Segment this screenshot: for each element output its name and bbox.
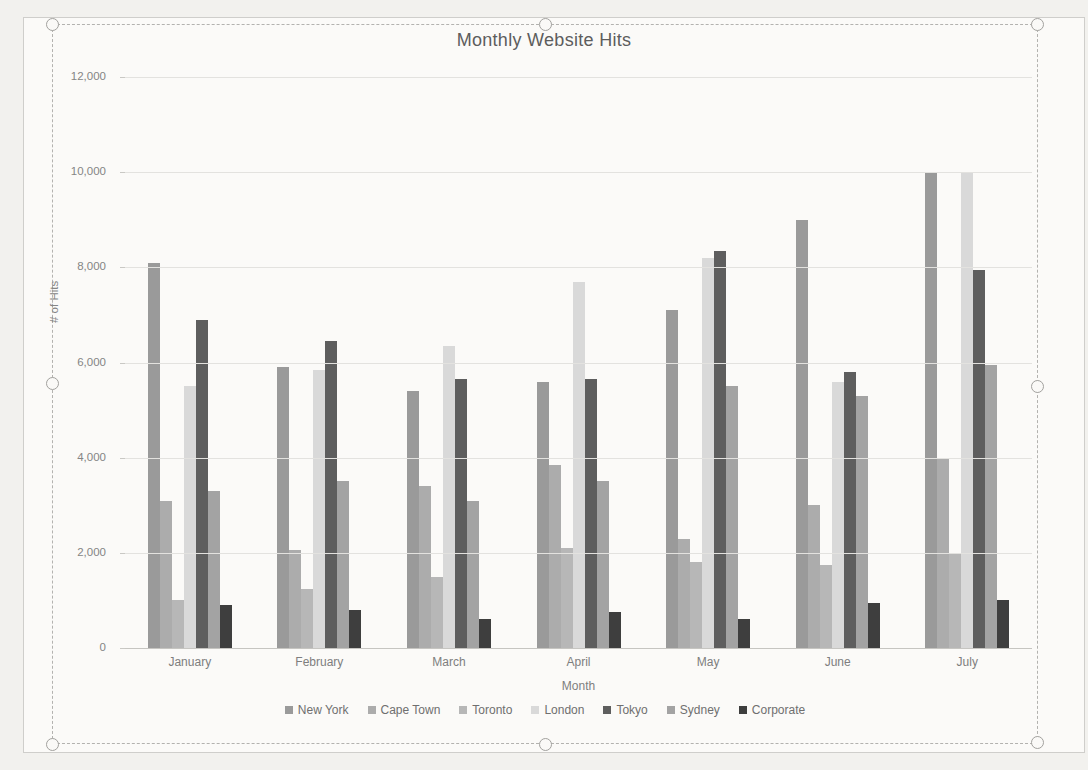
bar-corporate-june[interactable] (868, 603, 880, 648)
legend-item-tokyo[interactable]: Tokyo (603, 703, 647, 717)
bar-corporate-july[interactable] (997, 600, 1009, 648)
x-axis-labels[interactable]: JanuaryFebruaryMarchAprilMayJuneJuly (125, 655, 1032, 669)
x-axis-title[interactable]: Month (125, 679, 1032, 693)
bar-toronto-march[interactable] (431, 577, 443, 648)
bar-london-january[interactable] (184, 386, 196, 648)
selection-handle-bottom-right[interactable] (1031, 736, 1044, 749)
selection-handle-top-center[interactable] (539, 18, 552, 31)
y-axis-labels[interactable]: 12,00010,0008,0006,0004,0002,0000 (58, 0, 106, 770)
legend-swatch-london (531, 706, 539, 714)
selection-handle-middle-right[interactable] (1031, 380, 1044, 393)
bar-london-may[interactable] (702, 258, 714, 648)
chart-legend: New YorkCape TownTorontoLondonTokyoSydne… (52, 703, 1038, 717)
legend-item-toronto[interactable]: Toronto (459, 703, 512, 717)
gridline-10000 (125, 172, 1032, 173)
bar-sydney-may[interactable] (726, 386, 738, 648)
legend-label-sydney: Sydney (680, 703, 720, 717)
legend-item-new-york[interactable]: New York (285, 703, 349, 717)
bar-tokyo-april[interactable] (585, 379, 597, 648)
bar-sydney-january[interactable] (208, 491, 220, 648)
bar-new-york-february[interactable] (277, 367, 289, 648)
bar-tokyo-january[interactable] (196, 320, 208, 648)
legend-swatch-sydney (667, 706, 675, 714)
x-label-july: July (902, 655, 1032, 669)
bar-corporate-may[interactable] (738, 619, 750, 648)
bar-cape-town-january[interactable] (160, 501, 172, 649)
bar-sydney-february[interactable] (337, 481, 349, 648)
bar-sydney-june[interactable] (856, 396, 868, 648)
gridline-4000 (125, 458, 1032, 459)
bar-corporate-march[interactable] (479, 619, 491, 648)
bar-toronto-june[interactable] (820, 565, 832, 648)
bar-cape-town-may[interactable] (678, 539, 690, 648)
bar-tokyo-july[interactable] (973, 270, 985, 648)
bar-toronto-july[interactable] (949, 553, 961, 648)
y-tick-label-8000: 8,000 (58, 260, 106, 272)
selection-handle-bottom-left[interactable] (46, 738, 59, 751)
x-label-february: February (255, 655, 385, 669)
y-tick-mark (120, 172, 125, 173)
bar-sydney-july[interactable] (985, 365, 997, 648)
bar-london-february[interactable] (313, 370, 325, 648)
legend-item-cape-town[interactable]: Cape Town (368, 703, 441, 717)
y-tick-label-6000: 6,000 (58, 356, 106, 368)
legend-item-sydney[interactable]: Sydney (667, 703, 720, 717)
bar-toronto-february[interactable] (301, 589, 313, 648)
legend-swatch-corporate (739, 706, 747, 714)
plot-area (125, 77, 1032, 648)
y-tick-mark (120, 267, 125, 268)
chart-title[interactable]: Monthly Website Hits (0, 30, 1088, 51)
bar-corporate-april[interactable] (609, 612, 621, 648)
x-label-april: April (514, 655, 644, 669)
bar-corporate-february[interactable] (349, 610, 361, 648)
bar-london-march[interactable] (443, 346, 455, 648)
legend-swatch-toronto (459, 706, 467, 714)
x-axis-line (125, 648, 1032, 649)
y-tick-mark (120, 648, 125, 649)
x-label-march: March (384, 655, 514, 669)
gridline-6000 (125, 363, 1032, 364)
legend-swatch-cape-town (368, 706, 376, 714)
x-label-may: May (643, 655, 773, 669)
bar-cape-town-february[interactable] (289, 550, 301, 648)
bar-london-april[interactable] (573, 282, 585, 648)
bar-corporate-january[interactable] (220, 605, 232, 648)
y-tick-label-2000: 2,000 (58, 546, 106, 558)
selection-handle-top-right[interactable] (1031, 18, 1044, 31)
legend-swatch-new-york (285, 706, 293, 714)
bar-tokyo-march[interactable] (455, 379, 467, 648)
bar-new-york-july[interactable] (925, 172, 937, 648)
bar-london-june[interactable] (832, 382, 844, 648)
bar-new-york-june[interactable] (796, 220, 808, 648)
bar-cape-town-march[interactable] (419, 486, 431, 648)
legend-label-cape-town: Cape Town (381, 703, 441, 717)
bar-new-york-march[interactable] (407, 391, 419, 648)
selection-handle-bottom-center[interactable] (539, 738, 552, 751)
selection-handle-top-left[interactable] (46, 18, 59, 31)
y-tick-mark (120, 458, 125, 459)
gridline-8000 (125, 267, 1032, 268)
bar-new-york-april[interactable] (537, 382, 549, 648)
bar-tokyo-june[interactable] (844, 372, 856, 648)
bar-cape-town-june[interactable] (808, 505, 820, 648)
bar-london-july[interactable] (961, 172, 973, 648)
bar-new-york-january[interactable] (148, 263, 160, 648)
y-tick-mark (120, 553, 125, 554)
y-tick-mark (120, 363, 125, 364)
bar-tokyo-may[interactable] (714, 251, 726, 648)
bar-toronto-january[interactable] (172, 600, 184, 648)
bar-toronto-april[interactable] (561, 548, 573, 648)
legend-item-corporate[interactable]: Corporate (739, 703, 805, 717)
x-label-june: June (773, 655, 903, 669)
bar-cape-town-april[interactable] (549, 465, 561, 648)
bar-sydney-april[interactable] (597, 481, 609, 648)
legend-item-london[interactable]: London (531, 703, 584, 717)
bar-tokyo-february[interactable] (325, 341, 337, 648)
legend-label-corporate: Corporate (752, 703, 805, 717)
bar-new-york-may[interactable] (666, 310, 678, 648)
y-tick-label-0: 0 (58, 641, 106, 653)
bar-sydney-march[interactable] (467, 501, 479, 649)
selection-handle-middle-left[interactable] (46, 377, 59, 390)
legend-swatch-tokyo (603, 706, 611, 714)
bar-toronto-may[interactable] (690, 562, 702, 648)
